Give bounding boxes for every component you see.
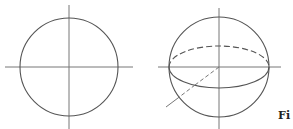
oblique-axis-hidden — [178, 85, 195, 98]
figure-caption: Fi — [278, 109, 291, 122]
diagram-canvas — [0, 0, 293, 129]
oblique-axis-solid — [166, 98, 178, 107]
oblique-axis-dashed — [195, 67, 219, 85]
sphere-panel — [158, 8, 281, 129]
circle-panel — [5, 5, 133, 129]
